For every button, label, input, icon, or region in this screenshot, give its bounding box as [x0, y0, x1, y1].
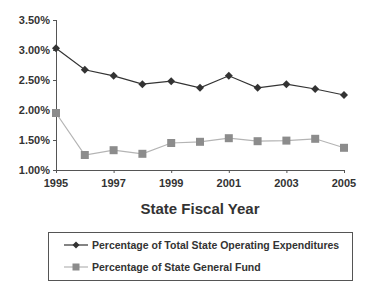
square-marker-icon [110, 146, 118, 154]
y-tick-label: 2.00% [19, 104, 50, 116]
legend-item-total-operating: Percentage of Total State Operating Expe… [64, 239, 339, 251]
x-axis: 199519971999200120032005 [44, 170, 356, 189]
diamond-marker-icon [110, 72, 118, 80]
x-tick-label: 2001 [217, 177, 241, 189]
diamond-marker-icon [254, 84, 262, 92]
y-tick-label: 1.50% [19, 134, 50, 146]
square-marker-icon [340, 144, 348, 152]
diamond-marker-icon [167, 77, 175, 85]
square-marker-icon [225, 134, 233, 142]
diamond-marker-icon [138, 80, 146, 88]
square-marker-icon [254, 137, 262, 145]
diamond-marker-icon [311, 85, 319, 93]
square-marker-icon [81, 151, 89, 159]
square-marker-icon [73, 264, 80, 271]
square-marker-icon [196, 138, 204, 146]
legend: Percentage of Total State Operating Expe… [49, 233, 353, 281]
legend-label: Percentage of State General Fund [92, 261, 261, 273]
series-diamond [52, 44, 348, 99]
x-axis-title: State Fiscal Year [141, 200, 260, 217]
legend-label: Percentage of Total State Operating Expe… [92, 239, 339, 251]
square-marker-icon [52, 109, 60, 117]
square-marker-icon [282, 137, 290, 145]
y-tick-label: 2.50% [19, 74, 50, 86]
square-marker-icon [138, 150, 146, 158]
x-tick-label: 1999 [159, 177, 183, 189]
x-tick-label: 1997 [101, 177, 125, 189]
line-chart: 1.00%1.50%2.00%2.50%3.00%3.50% 199519971… [0, 0, 366, 293]
x-tick-label: 2005 [332, 177, 356, 189]
legend-item-general-fund: Percentage of State General Fund [64, 261, 261, 273]
x-tick-label: 2003 [274, 177, 298, 189]
y-axis: 1.00%1.50%2.00%2.50%3.00%3.50% [19, 14, 57, 176]
x-tick-label: 1995 [44, 177, 68, 189]
diamond-marker-icon [340, 91, 348, 99]
y-tick-label: 3.50% [19, 14, 50, 26]
diamond-marker-icon [196, 84, 204, 92]
square-marker-icon [311, 135, 319, 143]
series-square [52, 109, 348, 159]
diamond-marker-icon [225, 72, 233, 80]
square-marker-icon [167, 139, 175, 147]
y-tick-label: 1.00% [19, 164, 50, 176]
plot-series [52, 44, 348, 159]
y-tick-label: 3.00% [19, 44, 50, 56]
diamond-marker-icon [282, 80, 290, 88]
